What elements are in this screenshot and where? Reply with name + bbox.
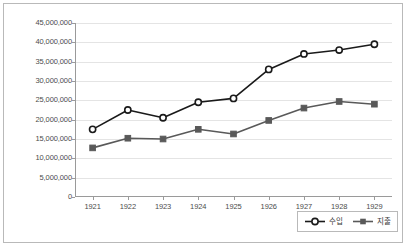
x-tick-mark (93, 197, 94, 200)
y-tick-mark (72, 139, 75, 140)
y-tick-mark (72, 62, 75, 63)
data-point-marker (195, 99, 201, 105)
x-tick-mark (339, 197, 340, 200)
data-point-marker (301, 105, 307, 111)
y-tick-mark (72, 100, 75, 101)
y-tick-mark (72, 23, 75, 24)
data-point-marker (125, 107, 131, 113)
x-tick-mark (198, 197, 199, 200)
chart-frame: 45,000,00040,000,00035,000,00030,000,000… (3, 3, 403, 243)
data-point-marker (125, 135, 131, 141)
x-tick-label: 1927 (284, 203, 324, 211)
data-point-marker (266, 118, 272, 124)
legend-circle-icon (304, 217, 326, 226)
x-tick-label: 1923 (143, 203, 183, 211)
x-tick-mark (163, 197, 164, 200)
y-tick-mark (72, 158, 75, 159)
data-point-marker (336, 47, 342, 53)
y-tick-mark (72, 42, 75, 43)
x-tick-label: 1926 (249, 203, 289, 211)
legend-label: 지출 (377, 218, 391, 226)
y-tick-mark (72, 178, 75, 179)
data-point-marker (230, 95, 236, 101)
x-tick-label: 1928 (319, 203, 359, 211)
data-point-marker (336, 99, 342, 105)
x-tick-label: 1921 (73, 203, 113, 211)
data-point-marker (90, 145, 96, 151)
series-line (93, 44, 375, 129)
y-tick-mark (72, 197, 75, 198)
x-tick-mark (234, 197, 235, 200)
x-tick-label: 1922 (108, 203, 148, 211)
data-point-marker (371, 41, 377, 47)
data-point-marker (301, 51, 307, 57)
series-line (93, 101, 375, 147)
x-tick-label: 1925 (214, 203, 254, 211)
data-point-marker (160, 115, 166, 121)
x-tick-mark (374, 197, 375, 200)
series-2 (90, 99, 377, 151)
series-1 (90, 41, 378, 132)
legend-label: 수입 (329, 218, 343, 226)
x-tick-mark (269, 197, 270, 200)
x-tick-label: 1924 (178, 203, 218, 211)
data-point-marker (266, 66, 272, 72)
y-tick-mark (72, 120, 75, 121)
x-tick-label: 1929 (354, 203, 394, 211)
data-point-marker (195, 127, 201, 133)
legend-square-icon (352, 217, 374, 226)
data-point-marker (372, 101, 378, 107)
data-point-marker (231, 131, 237, 137)
data-point-marker (90, 126, 96, 132)
y-tick-mark (72, 81, 75, 82)
x-tick-mark (304, 197, 305, 200)
chart-legend[interactable]: 수입지출 (297, 211, 398, 232)
data-point-marker (160, 136, 166, 142)
legend-entry-2[interactable]: 지출 (352, 217, 391, 226)
x-tick-mark (128, 197, 129, 200)
legend-entry-1[interactable]: 수입 (304, 217, 343, 226)
